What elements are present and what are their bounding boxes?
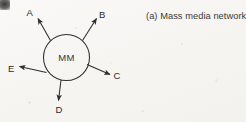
figure-mass-media-network: MM A B C D E (a) Mass media network bbox=[0, 0, 246, 122]
broadcast-arrow-e bbox=[20, 67, 47, 73]
receiver-label-b: B bbox=[99, 9, 105, 20]
broadcast-arrow-c bbox=[87, 65, 110, 75]
receiver-label-e: E bbox=[8, 63, 14, 74]
broadcast-arrow-b bbox=[83, 19, 97, 41]
receiver-label-c: C bbox=[114, 70, 121, 81]
figure-caption: (a) Mass media network bbox=[146, 11, 246, 21]
mass-media-hub-label: MM bbox=[58, 52, 74, 63]
receiver-label-a: A bbox=[27, 7, 34, 18]
receiver-label-d: D bbox=[56, 104, 63, 115]
broadcast-arrow-a bbox=[38, 19, 51, 41]
broadcast-arrow-d bbox=[59, 80, 62, 101]
